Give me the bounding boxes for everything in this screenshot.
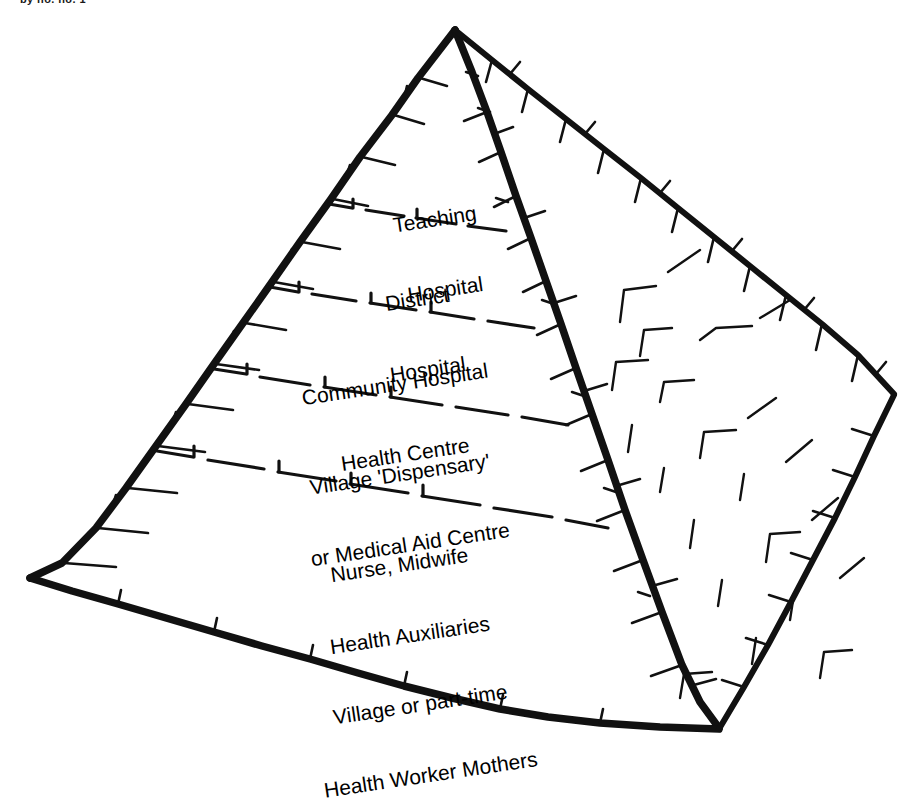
- tier-line: Health Auxiliaries: [245, 599, 575, 671]
- bottom-right-edge-tick-marks: [722, 429, 874, 687]
- tier-label-community-health-workers: Nurse, Midwife Health Auxiliaries Villag…: [227, 482, 602, 802]
- right-face-sketch-marks: [612, 250, 864, 698]
- tier-line: Village or part-time: [255, 668, 585, 740]
- tier-line: Nurse, Midwife: [234, 529, 564, 601]
- tier-line: Health Worker Mothers: [266, 738, 596, 802]
